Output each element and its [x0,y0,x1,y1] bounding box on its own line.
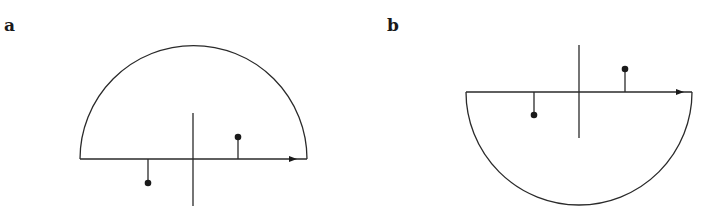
diagram-canvas: a b [0,0,721,212]
charge-dot-icon [531,112,538,119]
arrow-head-icon [289,156,297,162]
charge-dot-icon [622,66,629,73]
panel-b: b [387,15,692,205]
charge-dot-icon [145,180,152,187]
panel-a: a [4,15,307,206]
charge-dot-icon [235,134,242,141]
panel-label-b: b [387,15,399,35]
arrow-head-icon [676,89,684,95]
panel-label-a: a [4,15,15,35]
